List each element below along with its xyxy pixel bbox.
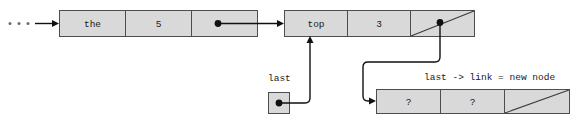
diagram-canvas: the 5 top 3 last xyxy=(0,0,585,124)
last-pointer-label: last xyxy=(268,73,291,84)
arrowhead-top-to-new xyxy=(369,98,376,105)
arrowhead-last-to-top xyxy=(307,36,314,43)
arrowhead-the-to-top xyxy=(277,20,284,27)
node-top: top 3 xyxy=(285,11,475,37)
node-top-data-label: top xyxy=(307,19,324,30)
ellipsis-dot-3 xyxy=(27,22,30,25)
last-pointer: last xyxy=(268,73,291,114)
node-new-count-label: ? xyxy=(470,97,476,108)
assignment-caption: last -> link = new node xyxy=(424,72,555,83)
node-new: ? ? xyxy=(377,90,570,114)
ellipsis-dot-2 xyxy=(18,22,21,25)
node-top-count-label: 3 xyxy=(376,19,382,30)
node-new-data-label: ? xyxy=(406,97,412,108)
linked-list-diagram: the 5 top 3 last xyxy=(0,0,585,124)
node-the-data-label: the xyxy=(84,19,101,30)
node-the-count-label: 5 xyxy=(156,19,162,30)
ellipsis-dot-1 xyxy=(9,22,12,25)
incoming-arrow xyxy=(35,20,59,27)
arrowhead-incoming xyxy=(52,20,59,27)
incoming-ellipsis xyxy=(9,22,30,25)
